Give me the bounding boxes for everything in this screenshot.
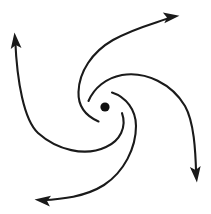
center-dot-icon	[100, 102, 109, 111]
spiral-diagram-canvas	[0, 0, 211, 214]
spiral-figure	[0, 0, 211, 214]
